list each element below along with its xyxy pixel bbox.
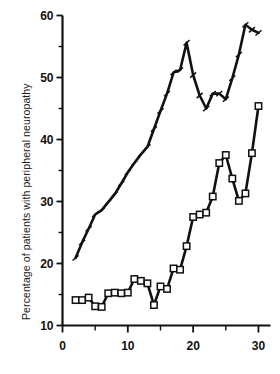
data-point-marker <box>190 214 196 220</box>
data-point-marker <box>138 278 144 284</box>
series-line <box>76 106 259 307</box>
data-point-marker <box>216 160 222 166</box>
series-upper-series <box>73 22 262 260</box>
y-tick-label: 10 <box>40 319 54 333</box>
y-tick-label: 40 <box>40 133 54 147</box>
data-point-marker <box>85 294 91 300</box>
data-point-marker <box>79 297 85 303</box>
line-chart-plot: 1020304050600102030 <box>0 0 280 374</box>
y-tick-label: 60 <box>40 9 54 23</box>
data-point-marker <box>183 243 189 249</box>
x-tick-label: 20 <box>186 339 200 353</box>
x-tick-label: 30 <box>252 339 266 353</box>
data-point-marker <box>164 286 170 292</box>
y-tick-label: 50 <box>40 71 54 85</box>
data-point-marker <box>170 265 176 271</box>
y-tick-label: 30 <box>40 195 54 209</box>
data-point-marker <box>210 193 216 199</box>
data-point-marker <box>118 290 124 296</box>
data-point-marker <box>98 304 104 310</box>
data-point-marker <box>151 302 157 308</box>
series-line <box>76 25 259 258</box>
figure-container: 1020304050600102030 Percentage of patien… <box>0 0 280 374</box>
x-tick-label: 10 <box>121 339 135 353</box>
y-tick-label: 20 <box>40 257 54 271</box>
data-point-marker <box>105 290 111 296</box>
data-point-marker <box>112 289 118 295</box>
data-point-marker <box>249 150 255 156</box>
data-point-marker <box>92 303 98 309</box>
data-point-marker <box>242 190 248 196</box>
data-series-group <box>72 22 261 310</box>
data-point-marker <box>177 267 183 273</box>
data-point-marker <box>229 175 235 181</box>
data-point-marker <box>223 152 229 158</box>
data-point-marker <box>255 103 261 109</box>
y-axis-title: Percentage of patients with peripheral n… <box>20 83 32 320</box>
data-point-marker <box>72 297 78 303</box>
data-point-marker <box>157 283 163 289</box>
data-point-marker <box>196 211 202 217</box>
data-point-marker <box>131 276 137 282</box>
x-tick-label: 0 <box>59 339 66 353</box>
series-lower-series <box>72 103 261 310</box>
data-point-marker <box>203 209 209 215</box>
data-point-marker <box>144 280 150 286</box>
data-point-marker <box>125 289 131 295</box>
data-point-marker <box>236 198 242 204</box>
